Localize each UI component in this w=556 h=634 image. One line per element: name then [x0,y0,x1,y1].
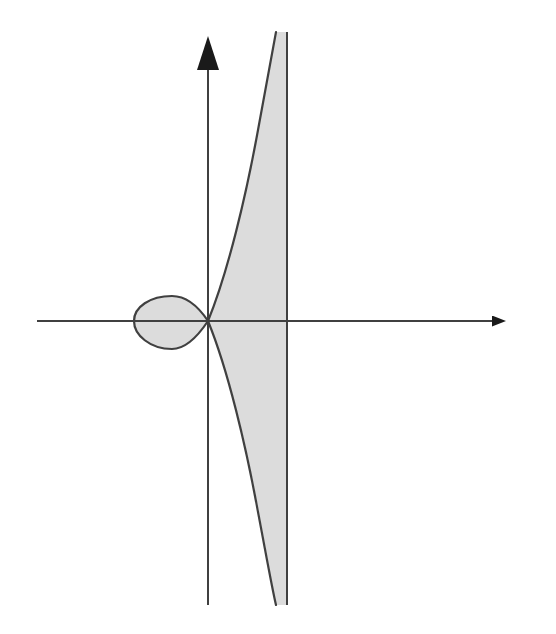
shaded-region-asymptotic [208,32,287,605]
curve-figure-svg [0,0,556,634]
figure-root [0,0,556,634]
y-axis-arrow-icon [197,36,219,70]
